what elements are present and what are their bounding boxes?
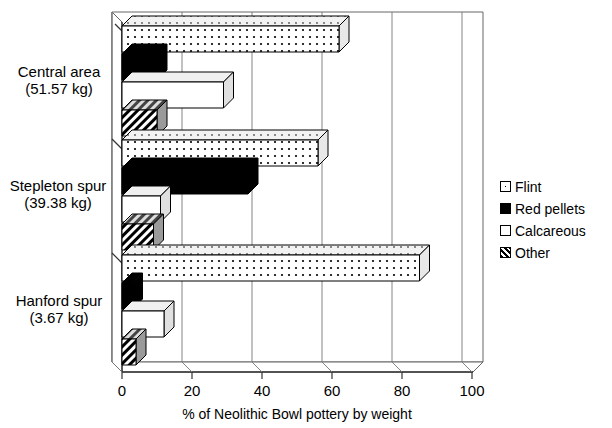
x-axis-title: % of Neolithic Bowl pottery by weight [93,406,501,422]
category-label-line2: (51.57 kg) [6,80,112,97]
legend-label: Red pellets [515,202,585,216]
legend-swatch-solid-icon [500,203,511,214]
x-tick-label-80: 80 [388,382,416,399]
legend-swatch-hatched-icon [500,247,511,258]
category-label-central-area: Central area (51.57 kg) [6,63,112,97]
legend-label: Flint [515,180,541,194]
bar-front-face [122,339,136,365]
category-label-line1: Central area [6,63,112,80]
category-label-hanford-spur: Hanford spur (3.67 kg) [4,292,114,326]
category-label-stepleton-spur: Stepleton spur (39.38 kg) [2,177,114,211]
x-tick-label-0: 0 [108,382,136,399]
legend-swatch-white-icon [500,225,511,236]
category-label-line2: (3.67 kg) [4,309,114,326]
legend-label: Calcareous [515,224,586,238]
legend-item-flint[interactable]: Flint [500,176,608,197]
chart-container: Central area (51.57 kg) Stepleton spur (… [0,0,612,428]
category-label-line1: Hanford spur [4,292,114,309]
legend-label: Other [515,246,550,260]
x-tick-label-20: 20 [178,382,206,399]
bar-top-face [122,245,430,255]
legend-item-other[interactable]: Other [500,242,608,263]
bar-front-face [122,255,420,281]
bar-top-face [122,16,349,26]
bar-top-face [122,130,328,140]
x-tick-label-100: 100 [458,382,486,399]
legend-item-red-pellets[interactable]: Red pellets [500,198,608,219]
category-label-line1: Stepleton spur [2,177,114,194]
legend-swatch-dotted-icon [500,181,511,192]
x-tick-label-40: 40 [248,382,276,399]
chart-legend: Flint Red pellets Calcareous Other [500,176,608,264]
bar-flint-hanford-spur [122,245,430,281]
legend-item-calcareous[interactable]: Calcareous [500,220,608,241]
bar-top-face [122,158,258,168]
bar-top-face [122,72,234,82]
x-tick-label-60: 60 [318,382,346,399]
category-label-line2: (39.38 kg) [2,194,114,211]
